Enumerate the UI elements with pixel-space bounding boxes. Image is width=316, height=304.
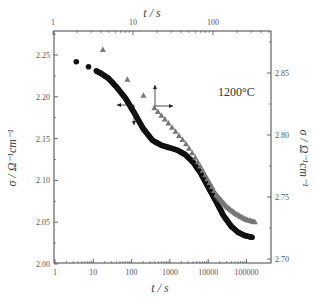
svg-text:100: 100 [207,18,219,27]
svg-text:2.10: 2.10 [36,176,50,185]
svg-text:2.15: 2.15 [36,135,50,144]
svg-text:2.05: 2.05 [36,218,50,227]
svg-text:2.20: 2.20 [36,93,50,102]
temperature-label: 1200°C [218,85,255,99]
svg-text:10: 10 [129,18,137,27]
conductivity-chart: 1101001000100001000001101002.002.052.102… [0,0,316,304]
svg-text:2.00: 2.00 [36,260,50,269]
svg-text:1: 1 [51,18,55,27]
svg-text:2.80: 2.80 [275,131,289,140]
svg-text:10000: 10000 [198,268,218,277]
svg-text:2.85: 2.85 [275,69,289,78]
svg-text:2.70: 2.70 [275,255,289,264]
svg-text:100000: 100000 [235,268,259,277]
svg-text:10: 10 [89,268,97,277]
right-axis-title: σ / Ω⁻¹cm⁻¹ [297,129,311,187]
svg-text:1: 1 [53,268,57,277]
svg-text:2.25: 2.25 [36,51,50,60]
top-axis-title: t / s [143,6,161,20]
triangle-series [100,46,258,224]
svg-text:100: 100 [126,268,138,277]
svg-text:2.75: 2.75 [275,193,289,202]
svg-text:1000: 1000 [162,268,178,277]
left-axis-title: σ / Ω⁻¹cm⁻¹ [5,129,19,187]
bottom-axis-title: t / s [151,281,169,295]
